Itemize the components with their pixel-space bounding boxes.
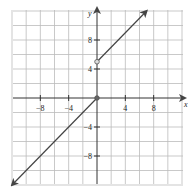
x-tick-label: −8 <box>36 104 45 113</box>
x-tick-label: −4 <box>64 104 73 113</box>
piecewise-graph: −8−44884−4−8xy <box>0 0 192 196</box>
y-tick-label: −4 <box>83 123 92 132</box>
open-point-marker <box>95 59 100 64</box>
closed-point-marker <box>95 96 100 101</box>
x-tick-label: 4 <box>123 104 127 113</box>
y-tick-label: −8 <box>83 152 92 161</box>
y-tick-label: 4 <box>88 65 92 74</box>
x-tick-label: 8 <box>152 104 156 113</box>
tick-labels: −8−44884−4−8xy <box>36 9 188 161</box>
y-axis-label: y <box>87 9 92 18</box>
x-axis-label: x <box>183 100 188 109</box>
y-tick-label: 8 <box>88 36 92 45</box>
